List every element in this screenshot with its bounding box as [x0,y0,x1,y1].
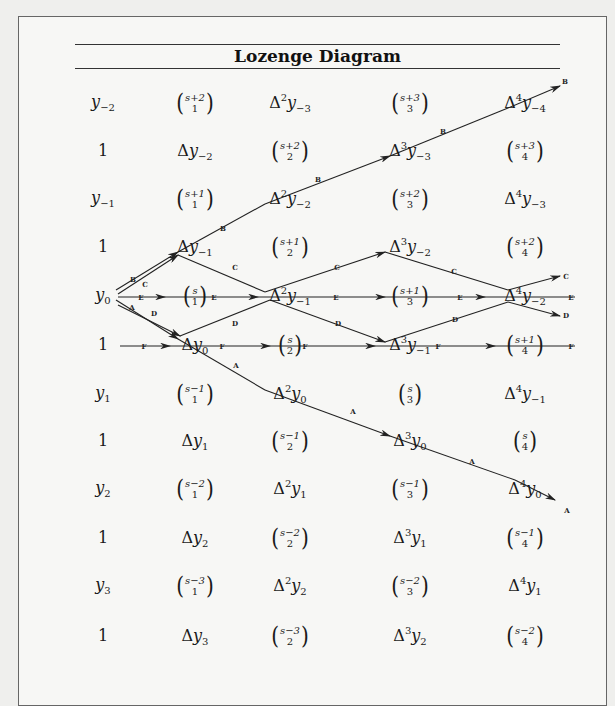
binomial-coefficient: (s−32) [271,625,309,647]
path-label: D [232,319,238,328]
constant-one: 1 [98,143,108,159]
y-term: y−1 [91,190,115,209]
path-label: F [142,342,147,351]
difference-term: Δ4y−4 [504,93,546,114]
difference-term: Δ3y1 [393,528,426,549]
path-label: E [138,293,143,302]
constant-one: 1 [98,337,108,353]
path-c-segment [118,255,178,294]
binomial-coefficient: (s+21) [176,92,214,114]
binomial-coefficient: (s−13) [391,478,429,500]
difference-term: Δ2y2 [273,576,306,597]
binomial-coefficient: (s+24) [506,236,544,258]
path-label: E [333,293,338,302]
path-label: C [232,263,238,272]
constant-one: 1 [98,628,108,644]
constant-one: 1 [98,433,108,449]
path-label: A [232,361,239,370]
difference-term: Δ2y0 [273,384,306,405]
constant-one: 1 [98,530,108,546]
binomial-coefficient: (s3) [398,383,422,405]
path-label: C [563,272,569,281]
path-label: B [220,224,226,233]
binomial-coefficient: (s+23) [391,188,429,210]
binomial-coefficient: (s+14) [506,334,544,356]
path-label: B [130,275,136,284]
difference-term: Δ2y−1 [269,286,311,307]
path-label: C [334,263,340,272]
path-label: D [452,315,458,324]
path-label: F [436,342,441,351]
binomial-coefficient: (s+22) [271,140,309,162]
binomial-coefficient: (s+34) [506,140,544,162]
path-label: C [451,267,457,276]
path-label: E [211,293,216,302]
difference-term: Δy3 [182,626,209,647]
difference-term: Δy−1 [177,237,212,258]
path-label: B [315,175,321,184]
binomial-coefficient: (s4) [513,430,537,452]
y-term: y−2 [91,94,115,113]
difference-term: Δ2y−2 [269,189,311,210]
difference-term: Δ2y−3 [269,93,311,114]
difference-term: Δ3y−2 [389,237,431,258]
difference-term: Δ2y1 [273,479,306,500]
constant-one: 1 [98,239,108,255]
binomial-coefficient: (s2) [278,334,302,356]
path-label: A [563,506,570,515]
path-label: A [128,303,135,312]
y-term: y0 [95,287,110,306]
path-label: D [151,309,157,318]
difference-term: Δ4y0 [508,479,541,500]
path-label: E [568,293,573,302]
path-label: D [563,311,569,320]
binomial-coefficient: (s−21) [176,478,214,500]
binomial-coefficient: (s+12) [271,236,309,258]
difference-term: Δ4y−3 [504,189,546,210]
y-term: y2 [95,480,110,499]
difference-term: Δy0 [182,335,209,356]
binomial-coefficient: (s−11) [176,383,214,405]
path-d-segment [118,305,180,336]
y-term: y1 [95,385,110,404]
binomial-coefficient: (s−12) [271,430,309,452]
difference-term: Δ3y−3 [389,141,431,162]
path-label: B [440,127,446,136]
path-label: A [468,457,475,466]
binomial-coefficient: (s+13) [391,285,429,307]
difference-term: Δ3y−1 [389,335,431,356]
difference-term: Δ4y1 [508,576,541,597]
difference-term: Δ3y0 [393,431,426,452]
binomial-coefficient: (s−22) [271,527,309,549]
path-label: C [142,280,148,289]
difference-term: Δ4y−1 [504,384,546,405]
binomial-coefficient: (s+11) [176,188,214,210]
path-label: E [457,293,462,302]
path-label: D [335,319,341,328]
path-label: A [349,407,356,416]
path-label: F [220,342,225,351]
difference-term: Δy−2 [177,141,212,162]
binomial-coefficient: (s1) [183,285,207,307]
binomial-coefficient: (s−14) [506,527,544,549]
path-label: B [562,77,568,86]
difference-term: Δy2 [182,528,209,549]
difference-term: Δ4y−2 [504,286,546,307]
path-label: F [569,342,574,351]
difference-term: Δy1 [182,431,209,452]
y-term: y3 [95,577,110,596]
binomial-coefficient: (s−31) [176,575,214,597]
binomial-coefficient: (s−24) [506,625,544,647]
binomial-coefficient: (s−23) [391,575,429,597]
difference-term: Δ3y2 [393,626,426,647]
binomial-coefficient: (s+33) [391,92,429,114]
path-label: F [303,342,308,351]
